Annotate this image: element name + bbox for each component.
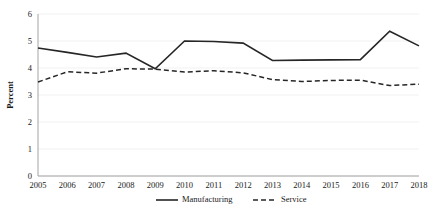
x-axis-tick-labels: 2005200620072008200920102011201220132014… <box>30 180 428 190</box>
x-tick-label-2016: 2016 <box>352 180 369 190</box>
y-tick-label-1: 1 <box>28 144 32 154</box>
y-tick-label-3: 3 <box>28 90 32 100</box>
x-tick-label-2012: 2012 <box>235 180 252 190</box>
line-chart: 0123456 20052006200720082009201020112012… <box>0 0 431 217</box>
x-tick-label-2010: 2010 <box>176 180 193 190</box>
chart-canvas: 0123456 20052006200720082009201020112012… <box>0 0 431 217</box>
x-tick-label-2008: 2008 <box>117 180 134 190</box>
data-series <box>38 31 419 85</box>
y-axis-tick-labels: 0123456 <box>28 9 33 181</box>
legend-label-service: Service <box>281 194 307 204</box>
gridlines <box>38 14 419 176</box>
y-tick-label-2: 2 <box>28 117 32 127</box>
y-tick-label-4: 4 <box>28 63 33 73</box>
x-tick-label-2011: 2011 <box>206 180 223 190</box>
x-tick-label-2007: 2007 <box>88 180 105 190</box>
x-tick-label-2017: 2017 <box>381 180 398 190</box>
y-axis-title: Percent <box>5 81 15 109</box>
y-tick-label-6: 6 <box>28 9 32 19</box>
legend-label-manufacturing: Manufacturing <box>182 194 233 204</box>
series-line-manufacturing <box>38 31 419 69</box>
x-tick-label-2009: 2009 <box>147 180 164 190</box>
x-tick-label-2005: 2005 <box>30 180 47 190</box>
x-tick-label-2014: 2014 <box>293 180 311 190</box>
chart-legend: ManufacturingService <box>156 194 307 204</box>
x-tick-label-2018: 2018 <box>411 180 428 190</box>
x-tick-label-2015: 2015 <box>323 180 340 190</box>
x-tick-label-2013: 2013 <box>264 180 281 190</box>
series-line-service <box>38 69 419 86</box>
y-tick-label-5: 5 <box>28 36 32 46</box>
x-tick-label-2006: 2006 <box>59 180 76 190</box>
